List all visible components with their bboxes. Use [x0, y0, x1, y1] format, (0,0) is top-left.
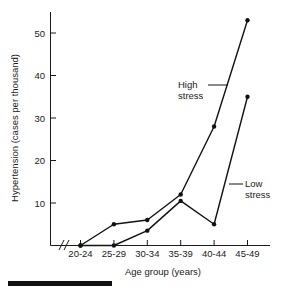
x-tick-label-40-44: 40-44: [202, 248, 226, 259]
figure-footer-rule: [8, 281, 112, 286]
data-point: [179, 192, 183, 196]
y-tick-label-20: 20: [34, 155, 45, 166]
y-tick-label-30: 30: [34, 113, 45, 124]
y-tick-label-50: 50: [34, 28, 45, 39]
data-point: [245, 95, 249, 99]
data-point: [112, 222, 116, 226]
data-point: [212, 222, 216, 226]
data-point: [245, 18, 249, 22]
data-point: [145, 228, 149, 232]
y-axis-title: Hypertension (cases per thousand): [9, 54, 20, 202]
x-tick-label-20-24: 20-24: [68, 248, 92, 259]
y-tick-label-40: 40: [34, 70, 45, 81]
series-line-low-stress: [81, 97, 248, 246]
data-point: [179, 199, 183, 203]
x-axis-title: Age group (years): [125, 266, 201, 277]
x-tick-label-45-49: 45-49: [235, 248, 259, 259]
data-point: [78, 243, 82, 247]
high-stress-label-line2: stress: [178, 90, 204, 101]
series-markers-high-stress: [78, 18, 249, 248]
series-markers-low-stress: [78, 95, 249, 248]
low-stress-label-line2: stress: [245, 189, 271, 200]
series-line-high-stress: [81, 20, 248, 245]
data-point: [212, 124, 216, 128]
line-chart: 50 40 30 20 10 20-24 25-29 30-34 35-39 4…: [0, 0, 283, 293]
high-stress-label-line1: High: [178, 79, 198, 90]
data-point: [112, 243, 116, 247]
low-stress-label-line1: Low: [245, 178, 263, 189]
figure-container: 50 40 30 20 10 20-24 25-29 30-34 35-39 4…: [0, 0, 283, 293]
x-tick-label-30-34: 30-34: [135, 248, 159, 259]
x-tick-label-25-29: 25-29: [102, 248, 126, 259]
x-tick-label-35-39: 35-39: [169, 248, 193, 259]
y-tick-label-10: 10: [34, 198, 45, 209]
data-point: [145, 218, 149, 222]
